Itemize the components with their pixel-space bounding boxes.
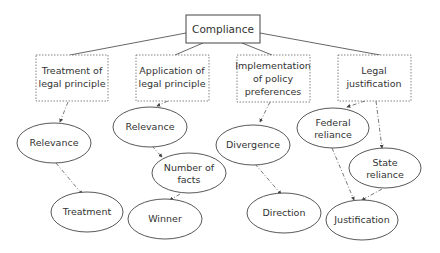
category-label-line: justification bbox=[345, 78, 401, 89]
edge-root-implementation bbox=[242, 43, 272, 55]
node-number-of-facts: Number of facts bbox=[152, 153, 226, 193]
node-direction: Direction bbox=[247, 193, 321, 233]
node-label: Treatment bbox=[62, 206, 112, 217]
compliance-diagram: Compliance Treatment of legal principle … bbox=[0, 0, 440, 253]
category-label-line: preferences bbox=[245, 86, 301, 97]
node-label: Divergence bbox=[226, 139, 280, 150]
category-label-line: Legal bbox=[361, 65, 386, 76]
edge-justification-state bbox=[376, 101, 382, 148]
edge-treatment-relevance bbox=[60, 102, 68, 122]
category-label-line: legal principle bbox=[139, 78, 206, 89]
node-divergence: Divergence bbox=[216, 125, 290, 165]
node-label: Justification bbox=[333, 214, 389, 225]
node-justification: Justification bbox=[326, 200, 398, 240]
edge-relevance-treatment bbox=[56, 163, 82, 194]
category-label-line: Application of bbox=[139, 65, 205, 76]
edge-divergence-direction bbox=[255, 164, 281, 194]
category-label-line: Treatment of bbox=[41, 65, 103, 76]
category-application-of-legal-principle: Application of legal principle bbox=[136, 55, 209, 101]
category-label-line: legal principle bbox=[39, 78, 106, 89]
node-relevance-application-branch: Relevance bbox=[113, 107, 187, 147]
category-label-line: of policy bbox=[253, 73, 294, 84]
node-federal-reliance: Federal reliance bbox=[297, 108, 369, 148]
edge-justification-federal bbox=[347, 101, 365, 107]
node-label: reliance bbox=[366, 169, 404, 180]
edge-root-justification bbox=[260, 33, 380, 55]
edge-root-application bbox=[175, 43, 203, 55]
category-label-line: Implementation bbox=[235, 60, 310, 71]
node-label: Number of bbox=[164, 162, 215, 173]
edge-implementation-divergence bbox=[260, 102, 270, 122]
category-implementation-of-policy-preferences: Implementation of policy preferences bbox=[235, 55, 310, 102]
edge-relevance-numberoffacts bbox=[152, 146, 162, 157]
node-compliance: Compliance bbox=[186, 15, 260, 43]
category-legal-justification: Legal justification bbox=[338, 55, 411, 101]
edge-root-treatment bbox=[70, 33, 186, 55]
node-label: Federal bbox=[315, 117, 350, 128]
node-label: reliance bbox=[314, 129, 352, 140]
node-state-reliance: State reliance bbox=[349, 148, 421, 188]
node-label: Direction bbox=[263, 207, 306, 218]
node-label: Winner bbox=[148, 213, 182, 224]
node-label: State bbox=[372, 157, 397, 168]
node-treatment: Treatment bbox=[51, 192, 123, 232]
node-winner: Winner bbox=[128, 199, 202, 239]
compliance-label: Compliance bbox=[192, 23, 254, 35]
edge-state-justification bbox=[362, 189, 382, 200]
node-label: facts bbox=[177, 174, 200, 185]
category-treatment-of-legal-principle: Treatment of legal principle bbox=[36, 55, 108, 101]
edge-application-relevance bbox=[157, 101, 168, 106]
node-label: Relevance bbox=[125, 121, 174, 132]
node-relevance-treatment-branch: Relevance bbox=[17, 123, 91, 163]
node-label: Relevance bbox=[29, 137, 78, 148]
